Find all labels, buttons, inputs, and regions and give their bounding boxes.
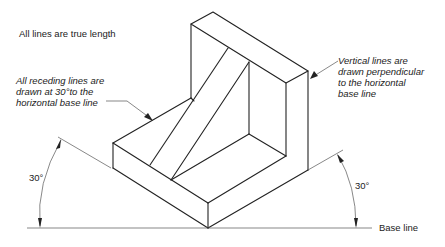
vertical-note-line-2: drawn perpendicular: [338, 66, 425, 77]
left-angle-indicator: 30°: [29, 137, 111, 228]
receding-lines-note: All receding lines are drawn at 30°to th…: [15, 75, 104, 108]
vertical-note-line-1: Vertical lines are: [338, 55, 408, 66]
leader-arrowhead-icon: [310, 71, 318, 79]
l-bracket-object: [113, 12, 308, 228]
arc-arrowhead-icon: [56, 139, 61, 149]
receding-note-leader: [106, 101, 153, 121]
right-angle-indicator: 30°: [308, 150, 370, 228]
vertical-note-line-4: base line: [338, 88, 376, 99]
arc-arrowhead-icon: [354, 218, 358, 228]
receding-note-line-2: drawn at 30°to the: [16, 86, 93, 97]
base-line-label: Base line: [379, 222, 418, 233]
receding-note-line-1: All receding lines are: [15, 75, 104, 86]
isometric-drawing: All lines are true length All receding l…: [0, 0, 445, 247]
true-length-note: All lines are true length: [19, 28, 116, 39]
vertical-note-line-3: to the horizontal: [338, 77, 406, 88]
vertical-lines-note: Vertical lines are drawn perpendicular t…: [338, 55, 425, 99]
receding-note-line-3: horizontal base line: [16, 97, 98, 108]
right-angle-label: 30°: [355, 180, 370, 191]
vertical-note-leader: [310, 61, 338, 79]
arc-arrowhead-icon: [38, 218, 42, 228]
arc-arrowhead-icon: [337, 154, 344, 163]
left-angle-label: 30°: [29, 172, 44, 183]
